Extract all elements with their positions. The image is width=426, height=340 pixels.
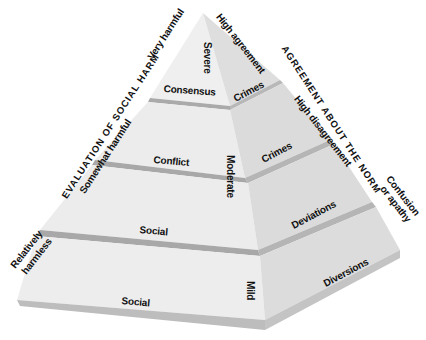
edge-label-mild: Mild: [245, 281, 255, 300]
edge-label-moderate: Moderate: [225, 155, 235, 198]
edge-label-severe: Severe: [202, 42, 212, 74]
